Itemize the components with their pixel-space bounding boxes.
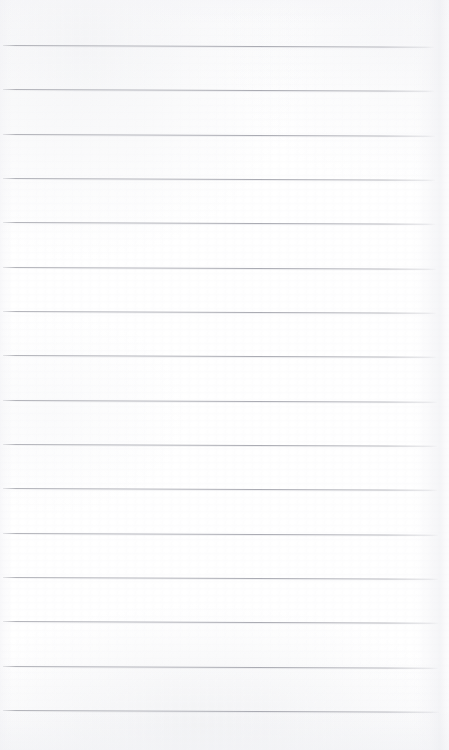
- scanned-notebook-page: [0, 0, 449, 750]
- rule-line: [3, 710, 439, 713]
- rule-line: [3, 533, 438, 536]
- rule-line: [3, 577, 438, 580]
- rule-line: [3, 488, 437, 491]
- ruled-lines-layer: [0, 0, 449, 750]
- rule-line: [3, 45, 434, 48]
- rule-line: [3, 222, 435, 225]
- rule-line: [3, 621, 438, 624]
- rule-line: [3, 178, 435, 181]
- rule-line: [3, 134, 435, 137]
- rule-line: [3, 311, 436, 314]
- rule-line: [3, 267, 436, 270]
- rule-line: [3, 444, 437, 447]
- rule-line: [3, 355, 436, 358]
- rule-line: [3, 89, 434, 92]
- rule-line: [3, 400, 437, 403]
- rule-line: [3, 666, 438, 669]
